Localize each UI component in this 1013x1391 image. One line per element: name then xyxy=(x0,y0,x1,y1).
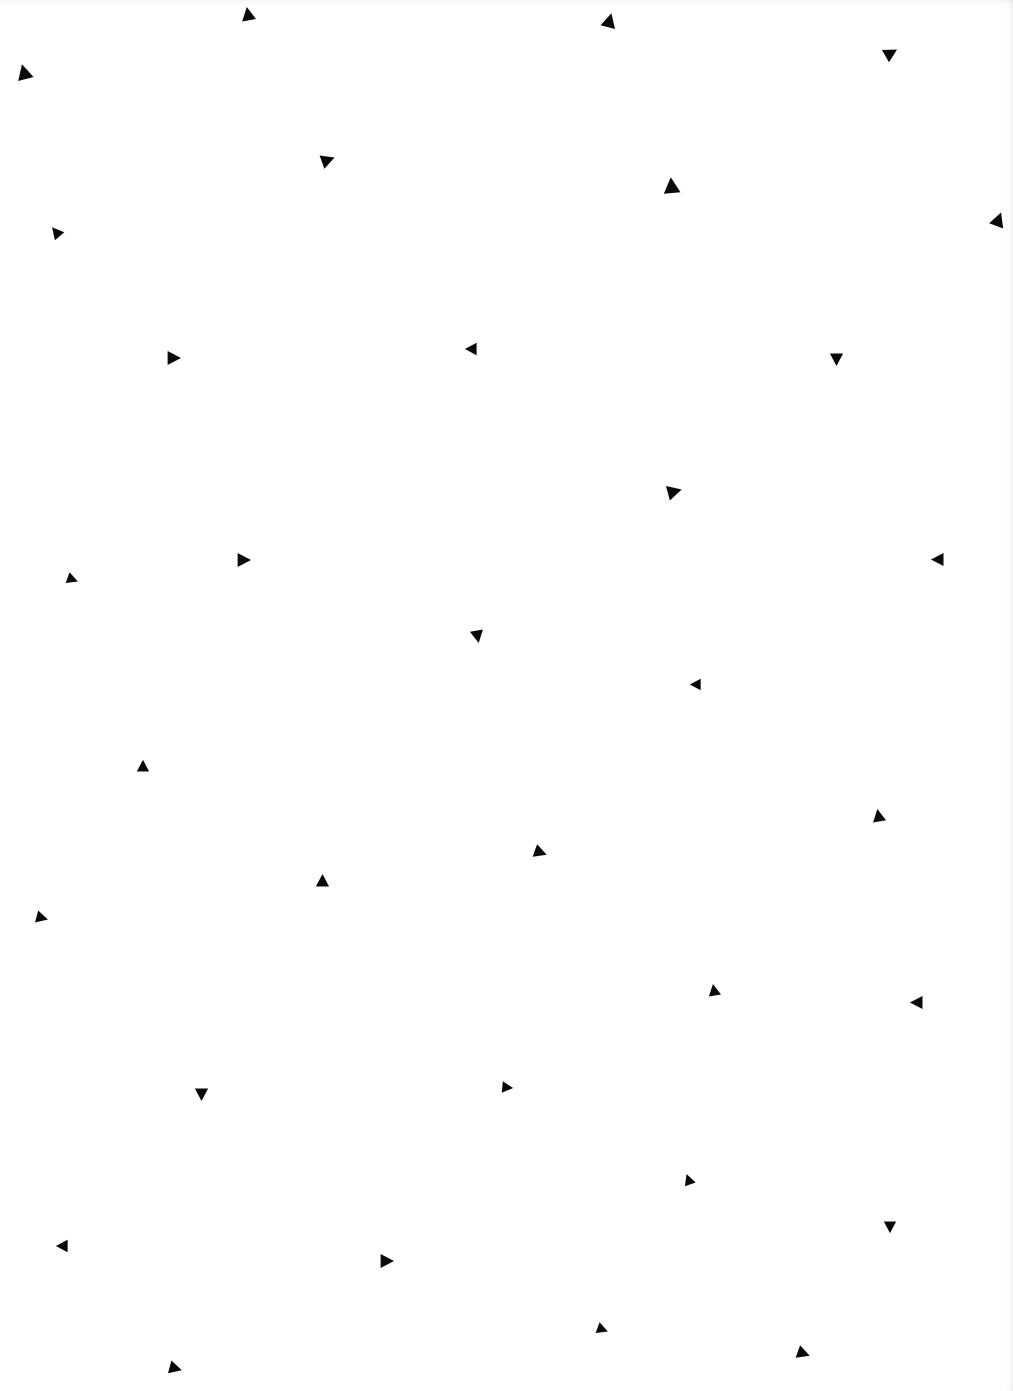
stimulus-sheet xyxy=(0,0,1013,1391)
